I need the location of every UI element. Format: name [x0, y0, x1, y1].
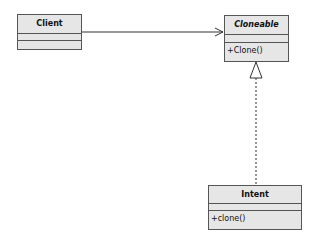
class-name: Cloneable [225, 16, 288, 35]
class-cloneable[interactable]: Cloneable +Clone() [224, 15, 289, 62]
attributes-compartment [209, 204, 301, 211]
class-name: Intent [209, 186, 301, 204]
operations-compartment [18, 41, 81, 49]
class-client[interactable]: Client [17, 14, 82, 50]
operation: +Clone() [225, 43, 288, 61]
operation: +clone() [209, 211, 301, 229]
hollow-triangle-icon [250, 62, 262, 78]
attributes-compartment [225, 35, 288, 43]
attributes-compartment [18, 34, 81, 41]
class-name: Client [18, 15, 81, 34]
class-intent[interactable]: Intent +clone() [208, 185, 302, 230]
